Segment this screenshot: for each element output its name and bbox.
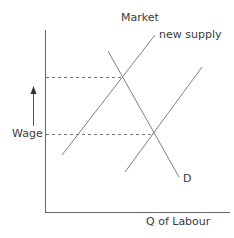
demand-curve: [108, 51, 179, 177]
demand-label: D: [183, 173, 191, 185]
arrow-up-icon: [31, 86, 37, 126]
new-supply-label: new supply: [159, 29, 221, 41]
new-supply-curve: [62, 35, 155, 155]
x-axis-label: Q of Labour: [146, 216, 210, 228]
diagram-title: Market: [121, 12, 159, 24]
y-axis-label: Wage: [12, 128, 43, 140]
supply-curve: [125, 67, 202, 172]
